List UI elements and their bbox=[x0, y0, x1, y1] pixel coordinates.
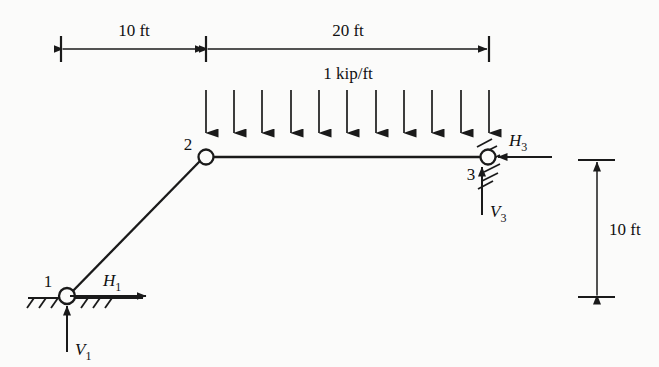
joint-3-group: 3 H3 V3 bbox=[467, 131, 552, 225]
frame-members bbox=[67, 157, 484, 297]
joint-2-hinge-circle bbox=[199, 150, 214, 165]
reaction-V1-label: V1 bbox=[75, 340, 91, 363]
joint-2-label: 2 bbox=[184, 135, 193, 154]
distributed-load-label: 1 kip/ft bbox=[323, 64, 373, 83]
joint-2-group: 2 bbox=[184, 135, 214, 165]
reaction-H1-label: H1 bbox=[102, 271, 121, 294]
diagram-canvas: 10 ft 20 ft 1 kip/ft bbox=[0, 0, 659, 367]
joint-1-group: 1 H1 V1 bbox=[27, 271, 146, 363]
structural-frame-diagram: 10 ft 20 ft 1 kip/ft bbox=[0, 0, 659, 367]
top-dimension-group: 10 ft 20 ft bbox=[61, 21, 489, 62]
dimension-label-top-left: 10 ft bbox=[118, 21, 150, 40]
joint-3-label: 3 bbox=[467, 165, 476, 184]
dimension-label-right-height: 10 ft bbox=[609, 220, 641, 239]
joint-1-label: 1 bbox=[44, 272, 53, 291]
reaction-V3-label: V3 bbox=[490, 202, 506, 225]
load-arrows bbox=[206, 90, 489, 133]
dimension-label-top-right: 20 ft bbox=[332, 21, 364, 40]
right-dimension-group: 10 ft bbox=[578, 160, 641, 297]
reaction-H3-label: H3 bbox=[508, 131, 527, 154]
distributed-load-group: 1 kip/ft bbox=[206, 64, 489, 133]
member-1-2 bbox=[67, 160, 201, 297]
joint-3-pin-circle bbox=[481, 150, 496, 165]
